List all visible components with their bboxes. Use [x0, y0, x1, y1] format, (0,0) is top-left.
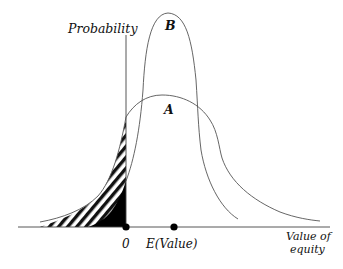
diagram-canvas: Probability B A 0 E(Value) Value of equi… [0, 0, 343, 269]
curve-b [126, 13, 238, 219]
expected-value-marker [170, 223, 177, 230]
curve-a [40, 95, 320, 222]
x-axis-label-line1: Value of [286, 230, 333, 243]
expected-value-label: E(Value) [145, 237, 198, 251]
y-axis-label: Probability [67, 21, 138, 36]
zero-point-marker [122, 223, 129, 230]
curve-b-label: B [164, 18, 176, 33]
x-axis-label-line2: equity [290, 243, 326, 256]
zero-label: 0 [122, 237, 130, 251]
curve-a-label: A [163, 102, 174, 117]
